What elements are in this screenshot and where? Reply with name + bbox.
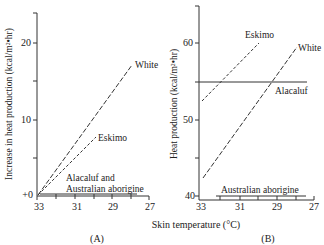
panel-b-ytick-50: 50 <box>183 114 193 125</box>
panel-b-ylabel: Heat production (kcal/m²•hr) <box>169 49 180 159</box>
panel-b: 60 50 40 33 31 29 27 Heat production (kc… <box>169 6 321 245</box>
panel-a-xtick-27: 27 <box>145 201 155 212</box>
panel-a-xtick-31: 31 <box>72 201 82 212</box>
panel-b-xtick-27: 27 <box>309 201 319 212</box>
panel-b-ytick-40: 40 <box>185 190 195 201</box>
panel-a-alacaluf-label-line1: Alacaluf and <box>66 173 115 183</box>
panel-a-xtick-29: 29 <box>108 201 118 212</box>
panel-a-ylabel: Increase in heat production (kcal/m²•hr) <box>4 28 15 180</box>
panel-b-ytick-60: 60 <box>183 37 193 48</box>
panel-b-white-label: White <box>298 43 321 53</box>
panel-a-white-label: White <box>135 60 158 70</box>
panel-b-aborigine-label: Australian aborigine <box>221 185 299 195</box>
panel-a-alacaluf-label-line2: Australian aborigine <box>66 184 144 194</box>
panel-a-eskimo-label: Eskimo <box>98 133 127 143</box>
panel-a-ytick-0: +0 <box>22 189 33 200</box>
panel-a-xtick-33: 33 <box>34 201 44 212</box>
panel-a: 20 10 +0 33 31 29 27 Increase in heat pr… <box>4 13 158 245</box>
figure: 20 10 +0 33 31 29 27 Increase in heat pr… <box>0 0 324 245</box>
panel-b-xtick-33: 33 <box>196 201 206 212</box>
panel-b-caption: (B) <box>261 233 274 245</box>
panel-b-white-line <box>203 47 297 178</box>
panel-b-x-axis <box>199 196 314 200</box>
panel-a-ytick-10: 10 <box>21 114 31 125</box>
panel-b-eskimo-line <box>202 43 259 101</box>
panel-b-eskimo-label: Eskimo <box>245 30 274 40</box>
panel-b-xtick-29: 29 <box>272 201 282 212</box>
panel-b-xtick-31: 31 <box>235 201 245 212</box>
shared-xlabel: Skin temperature (°C) <box>152 219 240 231</box>
panel-a-ytick-20: 20 <box>21 37 31 48</box>
panel-a-caption: (A) <box>90 233 104 245</box>
panel-b-alacaluf-label: Alacaluf <box>275 86 309 96</box>
